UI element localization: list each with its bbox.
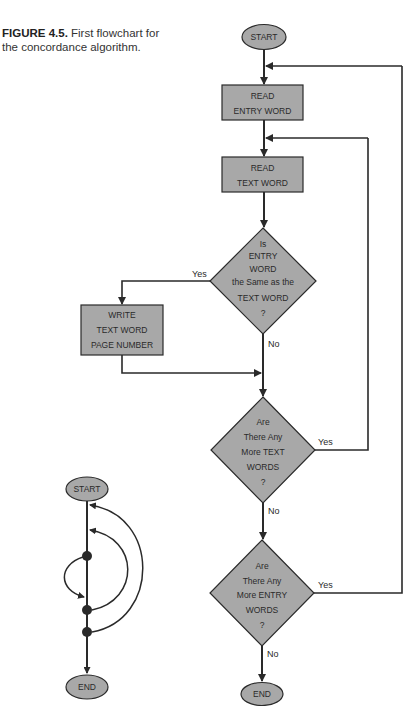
end-terminal: END bbox=[241, 683, 283, 706]
svg-text:PAGE NUMBER: PAGE NUMBER bbox=[91, 340, 153, 350]
end-label: END bbox=[253, 689, 271, 699]
line-more-text-yes-inner-loop bbox=[315, 138, 368, 450]
decision-more-entry-words: Are There Any More ENTRY WORDS ? bbox=[210, 540, 314, 646]
svg-text:WORDS: WORDS bbox=[246, 605, 279, 615]
svg-text:?: ? bbox=[261, 477, 266, 487]
edge-label-more-text-yes: Yes bbox=[318, 437, 333, 447]
mini-end-terminal: END bbox=[66, 675, 108, 699]
svg-text:Are: Are bbox=[255, 561, 269, 571]
arrow-write-to-merge bbox=[122, 355, 261, 373]
edge-label-more-entry-yes: Yes bbox=[318, 580, 333, 590]
process-read-text-word: READ TEXT WORD bbox=[222, 157, 303, 192]
decision-more-text-words: Are There Any More TEXT WORDS ? bbox=[211, 397, 315, 503]
mini-start-terminal: START bbox=[66, 477, 108, 501]
mini-end-label: END bbox=[78, 682, 96, 692]
start-label: START bbox=[250, 32, 277, 42]
svg-text:WORDS: WORDS bbox=[247, 462, 280, 472]
mini-node-3 bbox=[82, 627, 92, 637]
edge-label-same-no: No bbox=[268, 339, 280, 349]
svg-text:ENTRY: ENTRY bbox=[249, 251, 278, 261]
edge-label-more-entry-no: No bbox=[267, 649, 279, 659]
mini-inner-arc bbox=[90, 530, 128, 610]
svg-text:More ENTRY: More ENTRY bbox=[237, 590, 288, 600]
svg-text:TEXT WORD: TEXT WORD bbox=[97, 325, 148, 335]
svg-text:?: ? bbox=[261, 308, 266, 318]
decision-entry-same-as-text: Is ENTRY WORD the Same as the TEXT WORD … bbox=[210, 228, 316, 334]
mini-loop-diagram: START END bbox=[64, 477, 142, 699]
svg-text:READ: READ bbox=[251, 163, 275, 173]
svg-text:There Any: There Any bbox=[244, 432, 283, 442]
line-more-entry-yes-outer-loop bbox=[314, 66, 402, 593]
svg-text:TEXT WORD: TEXT WORD bbox=[237, 178, 288, 188]
process-read-entry-word: READ ENTRY WORD bbox=[222, 85, 303, 120]
mini-left-arc bbox=[64, 557, 84, 597]
mini-node-2 bbox=[82, 605, 92, 615]
arrow-same-yes-to-write bbox=[122, 281, 210, 304]
svg-text:Are: Are bbox=[256, 417, 270, 427]
svg-text:?: ? bbox=[260, 620, 265, 630]
svg-text:WORD: WORD bbox=[250, 264, 277, 274]
start-terminal: START bbox=[242, 25, 286, 50]
svg-text:ENTRY WORD: ENTRY WORD bbox=[234, 106, 292, 116]
svg-text:Is: Is bbox=[260, 239, 267, 249]
edge-label-more-text-no: No bbox=[268, 506, 280, 516]
flowchart-canvas: START READ ENTRY WORD READ TEXT WORD Is bbox=[0, 0, 415, 706]
main-flowchart: START READ ENTRY WORD READ TEXT WORD Is bbox=[81, 25, 402, 706]
svg-text:TEXT WORD: TEXT WORD bbox=[238, 293, 289, 303]
svg-text:READ: READ bbox=[251, 91, 275, 101]
process-write-text-word-page-number: WRITE TEXT WORD PAGE NUMBER bbox=[81, 305, 163, 355]
edge-label-same-yes: Yes bbox=[192, 269, 207, 279]
mini-outer-arc bbox=[90, 505, 143, 632]
mini-node-1 bbox=[82, 551, 92, 561]
svg-text:More TEXT: More TEXT bbox=[241, 447, 284, 457]
svg-text:There Any: There Any bbox=[243, 576, 282, 586]
mini-start-label: START bbox=[73, 484, 100, 494]
svg-text:the Same as the: the Same as the bbox=[232, 277, 294, 287]
svg-text:WRITE: WRITE bbox=[108, 310, 136, 320]
